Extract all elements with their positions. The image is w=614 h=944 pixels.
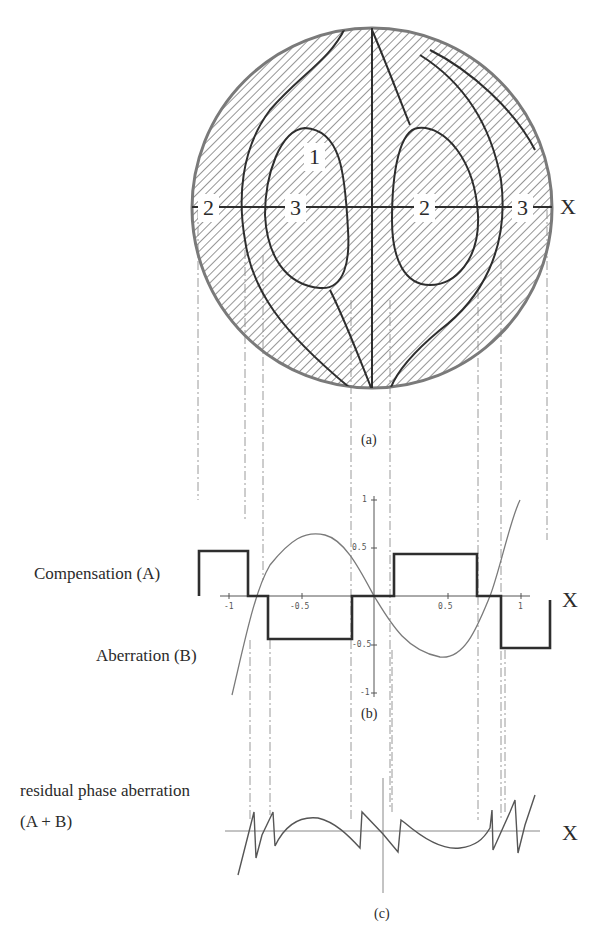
- x-tick-05: 0.5: [438, 602, 452, 611]
- caption-a: (a): [361, 432, 377, 448]
- x-tick-neg05: -0.5: [290, 602, 309, 611]
- residual-label-line1: residual phase aberration: [20, 781, 190, 801]
- axis-label-x-a: X: [560, 194, 576, 220]
- zone-label-2-right: 2: [414, 194, 435, 222]
- y-tick-1: 1: [362, 495, 367, 504]
- compensation-plot: [199, 496, 550, 697]
- pupil-diagram: [192, 26, 552, 390]
- residual-plot: [225, 778, 540, 893]
- residual-curve: [238, 795, 535, 875]
- zone-label-2-left: 2: [198, 194, 219, 222]
- y-tick-05: 0.5: [352, 543, 366, 552]
- figure-canvas: [0, 0, 614, 944]
- zone-label-3-right: 3: [512, 194, 533, 222]
- axis-label-x-b: X: [562, 587, 578, 613]
- y-tick-neg05: -0.5: [352, 640, 371, 649]
- compensation-label: Compensation (A): [34, 564, 160, 584]
- x-tick-1: 1: [518, 602, 523, 611]
- caption-b: (b): [361, 706, 377, 722]
- y-tick-neg1: -1: [360, 688, 370, 697]
- residual-label-line2: (A + B): [20, 812, 72, 832]
- x-tick-neg1: -1: [224, 602, 234, 611]
- aberration-curve: [232, 500, 520, 695]
- axis-label-x-c: X: [562, 820, 578, 846]
- zone-label-3-left: 3: [285, 194, 306, 222]
- caption-c: (c): [374, 906, 390, 922]
- aberration-label: Aberration (B): [96, 646, 197, 666]
- zone-label-1: 1: [304, 143, 325, 171]
